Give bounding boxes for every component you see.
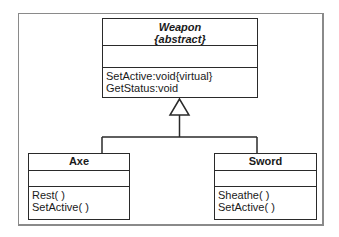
operation: SetActive( ) [218, 202, 316, 214]
class-weapon-operations: SetActive:void{virtual} GetStatus:void [103, 68, 257, 94]
class-weapon-stereotype: {abstract} [103, 33, 257, 45]
class-weapon-name: Weapon [103, 21, 257, 33]
class-axe-operations: Rest( ) SetActive( ) [29, 187, 129, 213]
class-weapon[interactable]: Weapon {abstract} SetActive:void{virtual… [102, 18, 258, 98]
operation: Sheathe( ) [218, 190, 316, 202]
class-sword-operations: Sheathe( ) SetActive( ) [215, 187, 316, 213]
operation: SetActive( ) [32, 202, 129, 214]
class-axe-name: Axe [69, 155, 89, 167]
class-axe-attributes [29, 171, 129, 187]
operation: Rest( ) [32, 190, 129, 202]
class-axe[interactable]: Axe Rest( ) SetActive( ) [28, 153, 130, 220]
class-sword-name: Sword [249, 155, 283, 167]
class-sword-header: Sword [215, 154, 316, 171]
class-sword-attributes [215, 171, 316, 187]
class-axe-header: Axe [29, 154, 129, 171]
class-sword[interactable]: Sword Sheathe( ) SetActive( ) [214, 153, 317, 220]
class-weapon-attributes [103, 46, 257, 68]
operation: SetActive:void{virtual} [106, 71, 257, 83]
generalization-arrow-icon [170, 99, 189, 115]
operation: GetStatus:void [106, 83, 257, 95]
class-weapon-header: Weapon {abstract} [103, 19, 257, 46]
